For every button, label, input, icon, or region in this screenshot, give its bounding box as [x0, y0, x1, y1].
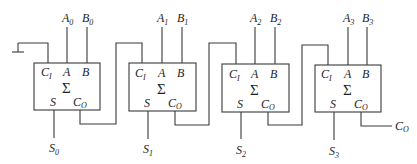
full-adder-cell-3: A3 B3 CI A B Σ S CO S3 [315, 11, 381, 160]
input-b-label: B1 [177, 11, 188, 27]
sigma-symbol: Σ [157, 81, 166, 97]
sum-output-label: S3 [329, 144, 339, 160]
input-a-label: A2 [249, 11, 261, 27]
sigma-symbol: Σ [250, 82, 259, 98]
input-b-label: B2 [270, 11, 281, 27]
port-s-label: S [330, 97, 336, 111]
sum-output-label: S0 [49, 141, 59, 157]
port-a-label: A [343, 67, 352, 81]
input-a-label: A1 [156, 11, 168, 27]
sum-output-label: S2 [236, 143, 246, 159]
carry-out-label: CO [395, 119, 409, 134]
port-b-label: B [270, 67, 278, 81]
port-b-label: B [362, 67, 370, 81]
port-a-label: A [62, 65, 71, 79]
port-b-label: B [177, 66, 185, 80]
sum-output-label: S1 [143, 142, 153, 158]
carry-out-wire [361, 112, 392, 126]
port-s-label: S [237, 97, 243, 111]
input-a-label: A3 [342, 11, 354, 27]
sigma-symbol: Σ [62, 80, 71, 96]
input-a-label: A0 [61, 11, 73, 27]
ripple-carry-adder-diagram: A0 B0 CI A B Σ S CO S0 A1 B1 CI A B Σ S … [0, 0, 417, 164]
sigma-symbol: Σ [343, 82, 352, 98]
full-adder-cell-2: A2 B2 CI A B Σ S CO S2 [222, 11, 289, 159]
carry-in-wire-0 [18, 43, 48, 63]
port-b-label: B [82, 65, 90, 79]
full-adder-cell-0: A0 B0 CI A B Σ S CO S0 [34, 11, 100, 157]
port-s-label: S [50, 95, 56, 109]
input-b-label: B0 [82, 11, 93, 27]
full-adder-cell-1: A1 B1 CI A B Σ S CO S1 [129, 11, 196, 158]
port-a-label: A [250, 67, 259, 81]
input-b-label: B3 [362, 11, 373, 27]
port-a-label: A [157, 66, 166, 80]
port-s-label: S [144, 96, 150, 110]
ground-icon [12, 43, 24, 52]
